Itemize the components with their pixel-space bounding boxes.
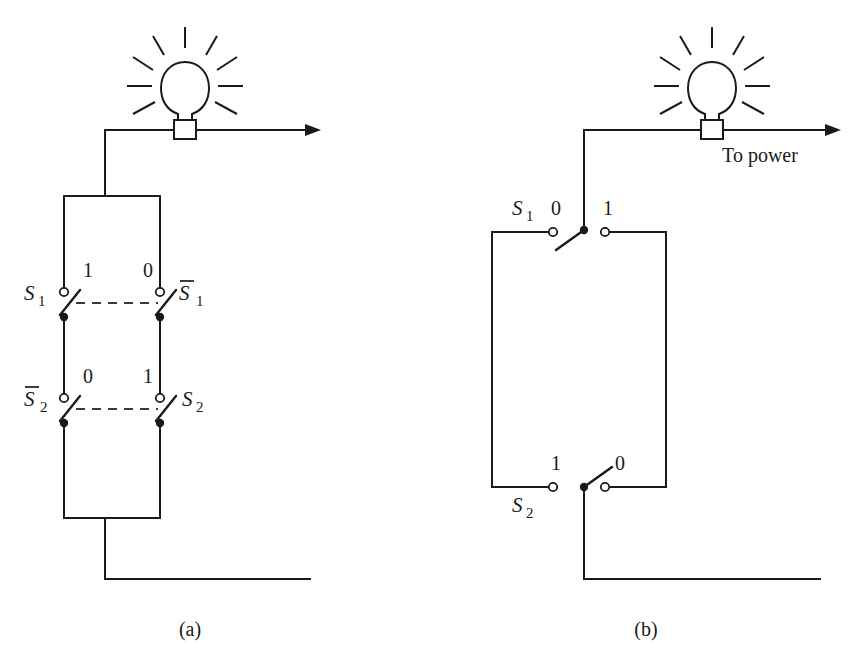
switch-S2-a[interactable] [156,394,176,427]
switch-label-S1-letter-b: S [512,196,523,220]
supply-wire-a [105,124,321,136]
switch-label-S1bar-letter-a: S [179,281,190,305]
supply-arrow-b [825,124,841,136]
switch-label-S2-a: S 2 [182,387,204,415]
return-wire-b [584,487,820,579]
lamp-rays-b [654,27,770,114]
state-label-S1-a: 1 [83,259,93,281]
switch-label-S2-letter-a: S [182,387,193,411]
switch-label-S1-a: S 1 [24,281,46,309]
switch-label-S2-subscript-a: 2 [196,399,204,415]
bulb-glass-a [161,62,209,120]
panel-a: 1 0 0 1 S 1 S 1 S 2 S 2 (a) [24,27,321,641]
switch-label-S2bar-subscript-a: 2 [40,399,48,415]
switch-row-top-a [60,288,176,321]
bulb-base-a [174,120,196,139]
lamp-rays-a [127,27,243,114]
switch-label-S1-subscript-a: 1 [38,293,46,309]
switch-S2-contact-0-b[interactable] [601,483,609,491]
supply-arrow-a [305,124,321,136]
switch-label-S2-subscript-b: 2 [526,505,534,521]
switch-label-S1bar-a: S 1 [179,281,204,309]
state-label-S2-a: 1 [143,365,153,387]
switch-label-S2-letter-b: S [512,493,523,517]
switch-row-bottom-a [60,394,176,427]
switch-S1-contact-1-b[interactable] [601,228,609,236]
switch-label-S1bar-subscript-a: 1 [196,293,204,309]
switch-S2bar-a[interactable] [60,394,80,427]
switch-label-S2-b: S 2 [512,493,534,521]
bulb-glass-b [688,62,736,120]
bulb-base-b [701,120,723,139]
figure-root: 1 0 0 1 S 1 S 1 S 2 S 2 (a) [0,0,864,663]
state-label-S1-contact1-b: 1 [603,197,613,219]
switch-label-S1-b: S 1 [512,196,534,224]
state-label-S1-contact0-b: 0 [551,197,561,219]
switch-S1-contact-0-b[interactable] [549,228,557,236]
circuit-diagram: 1 0 0 1 S 1 S 1 S 2 S 2 (a) [0,0,864,663]
panel-b: To power [492,27,841,641]
state-label-S1bar-a: 0 [143,259,153,281]
return-wire-a [105,518,310,579]
switch-S1-blade-b[interactable] [556,230,584,250]
switch-S2-open-terminal-a[interactable] [156,394,164,402]
state-label-S2-contact0-b: 0 [615,452,625,474]
switch-label-S1-subscript-b: 1 [526,208,534,224]
caption-b: (b) [634,618,657,641]
switch-S2-b[interactable] [492,467,666,491]
lamp-b [654,27,770,139]
caption-a: (a) [179,618,201,641]
switch-S1bar-open-terminal-a[interactable] [156,288,164,296]
switch-S1-a[interactable] [60,288,80,321]
switch-S2-contact-1-b[interactable] [549,483,557,491]
switch-S1-b[interactable] [492,226,666,250]
switch-label-S2bar-letter-a: S [24,387,35,411]
to-power-label: To power [722,144,798,167]
switch-S1-open-terminal-a[interactable] [60,288,68,296]
state-label-S2bar-a: 0 [83,365,93,387]
state-label-S2-contact1-b: 1 [551,452,561,474]
switch-label-S1-letter-a: S [24,281,35,305]
switch-S2bar-open-terminal-a[interactable] [60,394,68,402]
lamp-a [127,27,243,139]
switch-label-S2bar-a: S 2 [24,387,48,415]
switch-S1bar-a[interactable] [156,288,176,321]
